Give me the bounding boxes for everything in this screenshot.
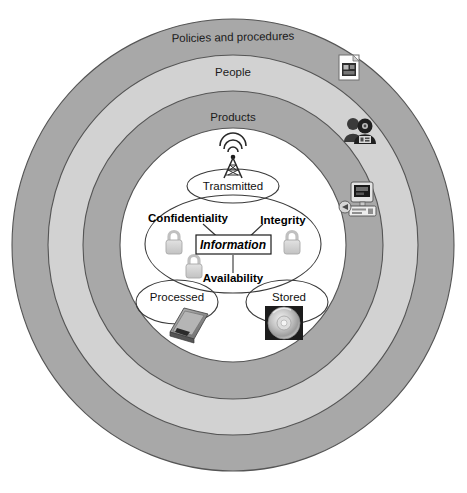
state-label-processed: Processed (150, 291, 204, 303)
triad-label-confidentiality: Confidentiality (148, 212, 228, 224)
ring-label-people: People (215, 66, 251, 78)
information-security-model-diagram: Policies and procedures People Products (0, 0, 467, 493)
triad-label-integrity: Integrity (260, 214, 306, 226)
optical-disc-icon (265, 306, 303, 340)
document-icon (339, 55, 359, 80)
ring-label-products: Products (210, 111, 256, 123)
state-label-stored: Stored (272, 291, 306, 303)
diagram-canvas: Policies and procedures People Products (0, 0, 467, 493)
state-label-transmitted: Transmitted (203, 180, 263, 192)
triad-label-availability: Availability (203, 272, 264, 284)
information-label: Information (200, 238, 266, 252)
